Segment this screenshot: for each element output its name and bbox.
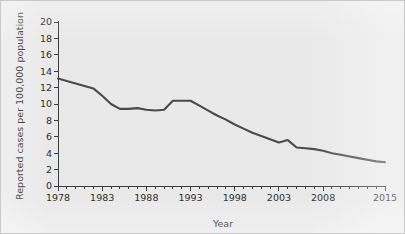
y-tick-label: 2 [46,164,52,175]
data-line [58,79,385,163]
y-tick-label: 14 [40,66,52,77]
chart-figure: 02468101214161820 1978198319881993199820… [0,0,405,234]
y-tick-label: 6 [46,131,52,142]
y-tick-label: 20 [40,16,52,27]
x-tick-label: 1983 [90,192,114,203]
x-tick-label: 2015 [373,192,397,203]
y-axis-title: Reported cases per 100,000 population [14,12,25,200]
x-tick-label: 1978 [46,192,70,203]
x-tick-label: 1988 [134,192,158,203]
data-series-group [58,79,385,163]
y-tick-label: 0 [46,180,52,191]
y-axis: 02468101214161820 [40,16,58,191]
x-tick-label: 1998 [223,192,247,203]
y-tick-label: 16 [40,49,52,60]
x-axis-title: Year [212,218,233,229]
x-tick-label: 1993 [178,192,202,203]
y-tick-label: 8 [46,115,52,126]
x-axis: 19781983198819931998200320082015 [46,186,397,203]
y-tick-label: 4 [46,148,52,159]
line-chart-plot: 02468101214161820 1978198319881993199820… [1,1,405,234]
y-tick-label: 10 [40,98,52,109]
y-tick-label: 12 [40,82,52,93]
x-tick-label: 2008 [311,192,335,203]
y-tick-label: 18 [40,33,52,44]
x-tick-label: 2003 [267,192,291,203]
